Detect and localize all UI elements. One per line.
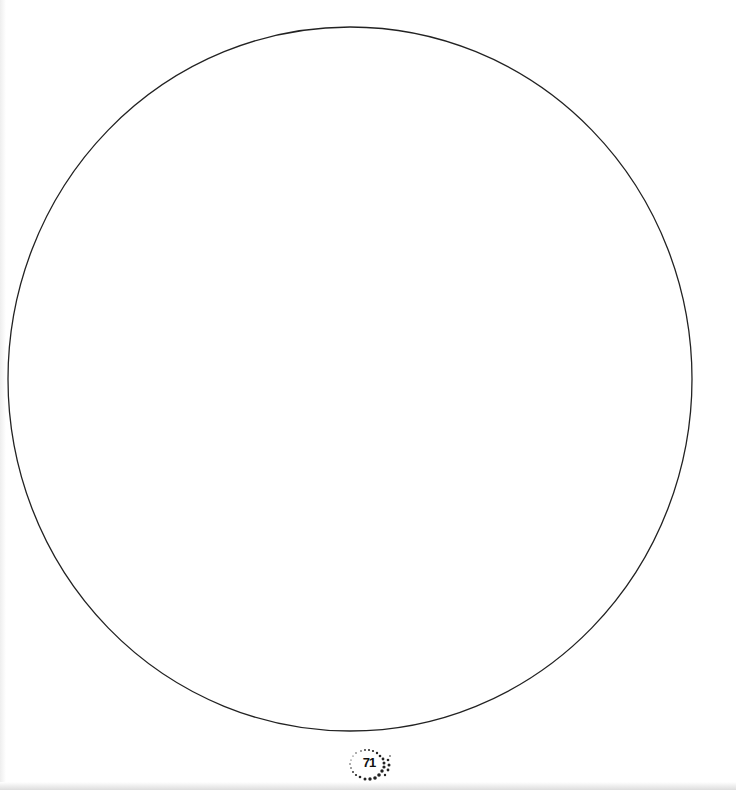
page-number: 71 [359, 755, 379, 770]
large-circle-outline [0, 0, 736, 790]
page-number-badge: 71 [347, 747, 395, 783]
page-bottom-edge [0, 782, 736, 790]
document-page: 71 [0, 0, 736, 790]
